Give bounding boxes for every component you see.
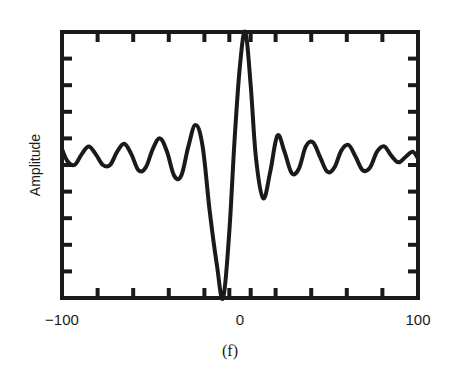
x-tick-label: −100 bbox=[45, 311, 79, 328]
figure-caption: (f) bbox=[222, 342, 238, 360]
y-axis-label: Amplitude bbox=[27, 134, 43, 196]
series-line-amplitude bbox=[62, 32, 418, 299]
x-tick-label: 100 bbox=[405, 311, 430, 328]
x-tick-label: 0 bbox=[236, 311, 244, 328]
x-tick-labels: −1000100 bbox=[45, 311, 430, 328]
chart: −1000100 Amplitude (f) bbox=[0, 0, 460, 376]
